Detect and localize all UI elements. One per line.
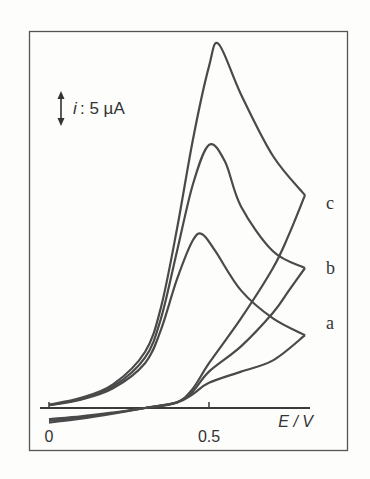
arrow-down-head	[58, 118, 65, 126]
x-tick-label-0.5: 0.5	[198, 428, 220, 445]
series-a-reverse-scan	[49, 335, 305, 419]
scale-bar-variable: i	[73, 99, 78, 118]
current-scale-bar: i : 5 µA	[58, 91, 126, 126]
plot-frame	[30, 32, 348, 451]
scale-bar-value: : 5 µA	[80, 99, 125, 118]
series-label-c: c	[326, 193, 334, 213]
x-axis-label: E / V	[278, 413, 314, 430]
x-tick-label-0: 0	[45, 428, 54, 445]
series-label-a: a	[326, 313, 334, 333]
series-c-forward-scan	[49, 43, 305, 405]
arrow-up-head	[58, 91, 65, 99]
series-b-forward-scan	[49, 144, 305, 405]
series-label-b: b	[326, 258, 335, 278]
cyclic-voltammogram-chart: 0 0.5 E / V i : 5 µA c b a	[0, 0, 370, 479]
